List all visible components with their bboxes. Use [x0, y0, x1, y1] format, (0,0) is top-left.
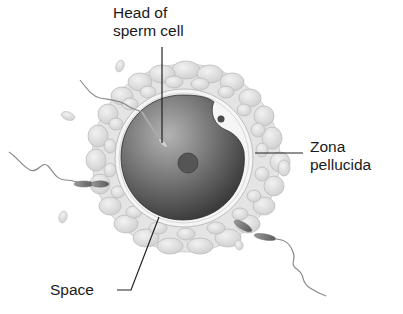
- label-head-of-sperm-cell: Head of sperm cell: [113, 4, 184, 40]
- label-zona-line2: pellucida: [310, 156, 371, 174]
- polar-body: [218, 116, 225, 123]
- label-head-line2: sperm cell: [113, 22, 184, 40]
- label-space: Space: [50, 281, 94, 299]
- label-space-text: Space: [50, 281, 94, 299]
- sperm-lower-right: [233, 218, 326, 296]
- label-zona-line1: Zona: [310, 138, 371, 156]
- label-zona-pellucida: Zona pellucida: [310, 138, 371, 174]
- fertilization-diagram: Head of sperm cell Zona pellucida Space: [0, 0, 403, 314]
- label-head-line1: Head of: [113, 4, 184, 22]
- egg-nucleus: [178, 153, 198, 173]
